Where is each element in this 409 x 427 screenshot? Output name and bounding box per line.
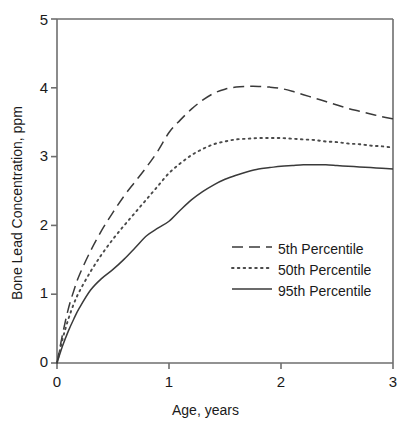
x-tick-label-2: 2 — [271, 374, 291, 389]
series-line-5th-percentile — [57, 86, 393, 363]
y-tick-label-1: 1 — [28, 285, 48, 300]
legend-label-95th-percentile: 95th Percentile — [278, 284, 371, 298]
plot-canvas — [0, 0, 409, 427]
x-tick-label-0: 0 — [47, 374, 67, 389]
x-tick-label-3: 3 — [383, 374, 403, 389]
legend-label-5th-percentile: 5th Percentile — [278, 242, 364, 256]
axis-frame — [57, 19, 393, 363]
data-series-layer — [57, 86, 393, 363]
y-axis-ticks — [51, 19, 57, 363]
y-tick-label-5: 5 — [28, 12, 48, 27]
x-axis-title: Age, years — [172, 403, 239, 417]
y-tick-label-2: 2 — [28, 217, 48, 232]
x-axis-ticks — [57, 363, 393, 369]
y-tick-label-4: 4 — [28, 80, 48, 95]
y-axis-title: Bone Lead Concentration, ppm — [10, 106, 24, 300]
bone-lead-concentration-chart: 5 4 3 2 1 0 0 1 2 3 Age, years Bone Lead… — [0, 0, 409, 427]
x-tick-label-1: 1 — [159, 374, 179, 389]
legend-line-samples — [232, 247, 272, 289]
y-tick-label-3: 3 — [28, 148, 48, 163]
legend-label-50th-percentile: 50th Percentile — [278, 263, 371, 277]
y-tick-label-0: 0 — [28, 354, 48, 369]
